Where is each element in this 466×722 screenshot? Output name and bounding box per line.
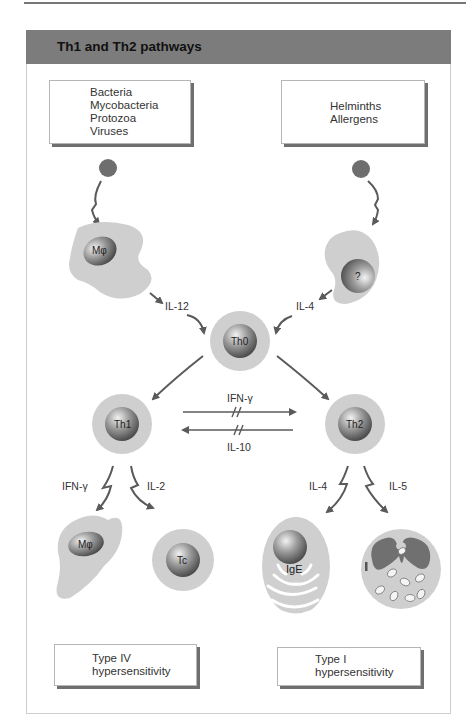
il4-th2-label: IL-4 xyxy=(309,480,327,492)
il5-label: IL-5 xyxy=(389,480,407,492)
tc-label: Tc xyxy=(177,555,187,566)
outcome-box-type-i: Type I hypersensitivity xyxy=(277,647,421,686)
th1-ifn-arrow xyxy=(97,466,113,510)
uptake-arrow-right xyxy=(368,181,378,224)
th1-label: Th1 xyxy=(114,419,132,430)
pathogen-dot-left xyxy=(99,159,117,177)
activated-macrophage xyxy=(57,515,123,598)
ifn-cross-label: IFN-γ xyxy=(227,392,253,404)
pathogen-dot-right xyxy=(352,160,370,178)
uptake-arrow-left xyxy=(92,181,101,224)
plasma-cell-nucleus xyxy=(273,530,307,564)
il12-arrow-out xyxy=(150,293,162,303)
il4-arrow-in xyxy=(276,316,292,333)
apc-left-label: Mφ xyxy=(92,245,107,256)
macrophage-label: Mφ xyxy=(78,539,93,550)
eosinophil xyxy=(361,529,441,609)
il4-arrow-out xyxy=(320,290,332,299)
outcome-type-iv-sub: hypersensitivity xyxy=(92,665,171,678)
pathway-diagram: Mφ ? Th0 Th1 Th2 Mφ Tc xyxy=(0,0,466,722)
il4-top-label: IL-4 xyxy=(296,300,314,312)
il12-label: IL-12 xyxy=(165,300,189,312)
th0-to-th1-arrow xyxy=(153,356,203,399)
th2-il4-arrow xyxy=(327,466,348,512)
outcome-type-i: Type I xyxy=(315,653,394,666)
outcome-box-type-iv: Type IV hypersensitivity xyxy=(54,644,197,686)
ige-label: IgE xyxy=(286,563,303,575)
th2-il5-arrow xyxy=(364,466,387,512)
apc-right-label: ? xyxy=(355,271,361,282)
outcome-type-iv: Type IV xyxy=(92,652,171,665)
th0-label: Th0 xyxy=(231,336,249,347)
outcome-type-i-sub: hypersensitivity xyxy=(315,666,394,679)
th2-label: Th2 xyxy=(346,419,364,430)
il2-label: IL-2 xyxy=(147,480,165,492)
ifn-th1-label: IFN-γ xyxy=(62,480,88,492)
th0-to-th2-arrow xyxy=(277,356,328,399)
il10-cross-label: IL-10 xyxy=(227,441,251,453)
il12-arrow-in xyxy=(187,315,204,333)
